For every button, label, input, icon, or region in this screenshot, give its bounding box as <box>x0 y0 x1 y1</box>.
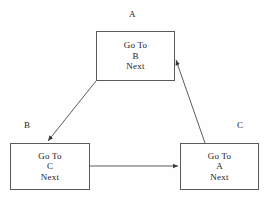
node-b-line-1: Go To <box>38 151 61 162</box>
node-label-c: C <box>237 120 243 130</box>
node-label-b: B <box>24 120 30 130</box>
diagram-canvas: A B C Go To B Next Go To C Next Go To A … <box>0 0 270 201</box>
node-c-line-1: Go To <box>208 151 231 162</box>
node-box-b[interactable]: Go To C Next <box>10 143 90 190</box>
edge-a-to-b <box>48 81 96 141</box>
node-box-c[interactable]: Go To A Next <box>180 143 259 190</box>
node-label-a: A <box>129 9 136 19</box>
node-a-line-3: Next <box>126 61 144 72</box>
node-b-line-2: C <box>47 161 53 172</box>
node-a-line-2: B <box>132 51 138 62</box>
node-c-line-2: A <box>216 161 223 172</box>
node-b-line-3: Next <box>41 172 59 183</box>
node-box-a[interactable]: Go To B Next <box>96 31 175 81</box>
edge-c-to-a <box>176 60 205 143</box>
node-a-line-1: Go To <box>124 40 147 51</box>
node-c-line-3: Next <box>210 172 228 183</box>
